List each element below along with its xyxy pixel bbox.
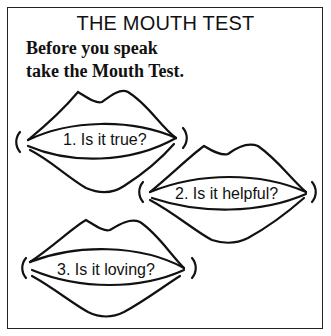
question-1-label: 1. Is it true?: [63, 131, 147, 149]
question-2-label: 2. Is it helpful?: [175, 185, 278, 203]
question-3-label: 3. Is it loving?: [57, 261, 155, 279]
lips-illustrations: [0, 0, 331, 336]
